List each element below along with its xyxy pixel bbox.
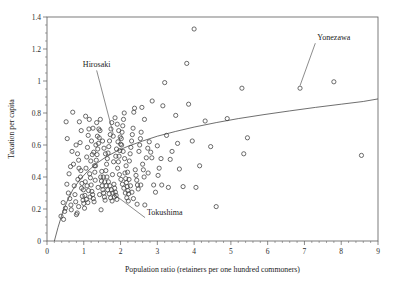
data-point[interactable]	[69, 203, 73, 207]
data-point[interactable]	[161, 104, 165, 108]
data-point[interactable]	[64, 120, 68, 124]
data-point[interactable]	[98, 117, 102, 121]
data-point[interactable]	[89, 183, 93, 187]
data-point[interactable]	[117, 173, 121, 177]
data-point[interactable]	[135, 178, 139, 182]
data-point[interactable]	[95, 121, 99, 125]
data-point[interactable]	[128, 152, 132, 156]
data-point[interactable]	[65, 137, 69, 141]
data-point[interactable]	[185, 61, 189, 65]
data-point[interactable]	[156, 173, 160, 177]
data-point[interactable]	[198, 164, 202, 168]
data-point[interactable]	[89, 159, 93, 163]
data-point[interactable]	[144, 156, 148, 160]
data-point[interactable]	[130, 133, 134, 137]
data-point[interactable]	[136, 187, 140, 191]
data-point[interactable]	[75, 152, 79, 156]
data-point[interactable]	[73, 193, 77, 197]
data-point[interactable]	[105, 157, 109, 161]
data-point[interactable]	[190, 139, 194, 143]
data-point[interactable]	[107, 139, 111, 143]
data-point[interactable]	[104, 162, 108, 166]
data-point[interactable]	[88, 172, 92, 176]
data-point[interactable]	[76, 177, 80, 181]
data-point[interactable]	[94, 158, 98, 162]
data-point[interactable]	[121, 117, 125, 121]
data-point[interactable]	[67, 172, 71, 176]
data-point[interactable]	[142, 175, 146, 179]
data-point[interactable]	[359, 153, 363, 157]
data-point[interactable]	[174, 113, 178, 117]
data-point[interactable]	[77, 205, 81, 209]
data-point[interactable]	[115, 122, 119, 126]
data-point[interactable]	[175, 141, 179, 145]
data-point[interactable]	[99, 208, 103, 212]
data-point[interactable]	[100, 139, 104, 143]
data-point[interactable]	[78, 141, 82, 145]
data-point[interactable]	[152, 183, 156, 187]
data-point[interactable]	[150, 156, 154, 160]
data-point[interactable]	[137, 149, 141, 153]
data-point[interactable]	[209, 145, 213, 149]
data-point[interactable]	[132, 106, 136, 110]
data-point[interactable]	[77, 158, 81, 162]
data-point[interactable]	[181, 185, 185, 189]
data-point[interactable]	[141, 168, 145, 172]
data-point[interactable]	[149, 150, 153, 154]
data-point[interactable]	[100, 184, 104, 188]
data-point[interactable]	[93, 178, 97, 182]
data-point[interactable]	[104, 169, 108, 173]
data-point[interactable]	[88, 176, 92, 180]
data-point[interactable]	[87, 117, 91, 121]
data-point[interactable]	[96, 147, 100, 151]
data-point[interactable]	[192, 27, 196, 31]
data-point[interactable]	[112, 182, 116, 186]
data-point[interactable]	[61, 217, 65, 221]
data-point[interactable]	[298, 86, 302, 90]
data-point[interactable]	[61, 201, 65, 205]
data-point[interactable]	[121, 124, 125, 128]
data-point[interactable]	[79, 129, 83, 133]
data-point[interactable]	[107, 145, 111, 149]
data-point[interactable]	[242, 152, 246, 156]
data-point[interactable]	[120, 182, 124, 186]
data-point[interactable]	[87, 127, 91, 131]
data-point[interactable]	[123, 157, 127, 161]
data-point[interactable]	[142, 117, 146, 121]
data-point[interactable]	[84, 114, 88, 118]
data-point[interactable]	[131, 126, 135, 130]
data-point[interactable]	[147, 140, 151, 144]
data-point[interactable]	[150, 99, 154, 103]
data-point[interactable]	[116, 160, 120, 164]
data-point[interactable]	[96, 185, 100, 189]
data-point[interactable]	[186, 102, 190, 106]
data-point[interactable]	[97, 193, 101, 197]
data-point[interactable]	[168, 157, 172, 161]
data-point[interactable]	[100, 169, 104, 173]
data-point[interactable]	[119, 177, 123, 181]
data-point[interactable]	[134, 173, 138, 177]
data-point[interactable]	[240, 86, 244, 90]
data-point[interactable]	[65, 182, 69, 186]
data-point[interactable]	[120, 143, 124, 147]
data-point[interactable]	[102, 146, 106, 150]
data-point[interactable]	[85, 184, 89, 188]
data-point[interactable]	[80, 194, 84, 198]
data-point[interactable]	[89, 139, 93, 143]
data-point[interactable]	[245, 136, 249, 140]
data-point[interactable]	[141, 162, 145, 166]
data-point[interactable]	[123, 171, 127, 175]
data-point[interactable]	[74, 143, 78, 147]
data-point[interactable]	[129, 139, 133, 143]
data-point[interactable]	[166, 185, 170, 189]
data-point[interactable]	[131, 197, 135, 201]
data-point[interactable]	[74, 200, 78, 204]
data-point[interactable]	[157, 166, 161, 170]
data-point[interactable]	[332, 80, 336, 84]
data-point[interactable]	[106, 151, 110, 155]
data-point[interactable]	[93, 170, 97, 174]
data-point[interactable]	[225, 117, 229, 121]
data-point[interactable]	[103, 152, 107, 156]
data-point[interactable]	[133, 168, 137, 172]
data-point[interactable]	[138, 143, 142, 147]
